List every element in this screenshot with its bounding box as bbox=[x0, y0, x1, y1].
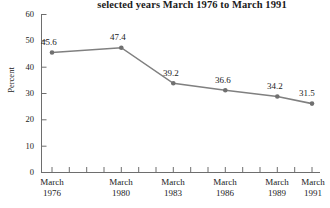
x-tick-label-1991: March 1991 bbox=[285, 177, 330, 198]
x-tick-label-1986: March 1986 bbox=[197, 177, 253, 198]
x-tick-label-1991-line1: March bbox=[285, 177, 330, 188]
data-label-1989: 34.2 bbox=[267, 82, 283, 91]
x-tick-label-1976: March 1976 bbox=[24, 177, 80, 198]
data-point-1980 bbox=[119, 45, 124, 50]
data-label-1980: 47.4 bbox=[110, 33, 126, 42]
data-label-1986: 36.6 bbox=[215, 76, 231, 85]
x-tick-label-1983-line1: March bbox=[145, 177, 201, 188]
data-line-percent bbox=[52, 48, 312, 104]
data-label-1991: 31.5 bbox=[299, 89, 315, 98]
y-tick-marks bbox=[42, 15, 47, 147]
data-point-1983 bbox=[171, 81, 176, 86]
data-point-1986 bbox=[223, 88, 228, 93]
x-tick-label-1980: March 1980 bbox=[93, 177, 149, 198]
x-tick-label-1980-line1: March bbox=[93, 177, 149, 188]
data-point-1989 bbox=[275, 94, 280, 99]
x-tick-label-1976-line1: March bbox=[24, 177, 80, 188]
x-tick-label-1983-line2: 1983 bbox=[145, 188, 201, 199]
data-label-1983: 39.2 bbox=[163, 69, 179, 78]
x-tick-label-1980-line2: 1980 bbox=[93, 188, 149, 199]
x-tick-label-1986-line1: March bbox=[197, 177, 253, 188]
x-tick-marks bbox=[52, 167, 312, 173]
x-tick-label-1986-line2: 1986 bbox=[197, 188, 253, 199]
data-label-1976: 45.6 bbox=[41, 38, 57, 47]
data-point-1976 bbox=[50, 50, 55, 55]
data-point-1991 bbox=[310, 101, 315, 106]
x-tick-label-1991-line2: 1991 bbox=[285, 188, 330, 199]
x-tick-label-1983: March 1983 bbox=[145, 177, 201, 198]
x-tick-label-1976-line2: 1976 bbox=[24, 188, 80, 199]
